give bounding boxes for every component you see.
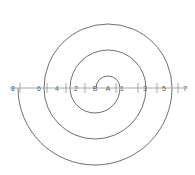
diagram-canvas: 8 6 4 2 B A 1 3 5 7 bbox=[0, 0, 195, 175]
axis-label-7: 7 bbox=[183, 85, 187, 92]
spiral-arc-6 bbox=[18, 88, 172, 165]
spiral-arc-5 bbox=[44, 24, 172, 88]
axis-label-1: 1 bbox=[120, 85, 124, 92]
axis-label-3: 3 bbox=[143, 85, 147, 92]
spiral-arc-4 bbox=[44, 88, 146, 139]
center-label-A: A bbox=[106, 85, 111, 92]
axis-label-2: 2 bbox=[74, 85, 78, 92]
axis-label-6: 6 bbox=[37, 85, 41, 92]
center-label-B: B bbox=[93, 85, 98, 92]
axis-label-5: 5 bbox=[162, 85, 166, 92]
axis-label-8: 8 bbox=[11, 85, 15, 92]
axis-label-4: 4 bbox=[55, 85, 59, 92]
spiral-path-group bbox=[18, 24, 172, 165]
spiral-arc-3 bbox=[70, 50, 146, 88]
spiral-figure: 8 6 4 2 B A 1 3 5 7 bbox=[0, 0, 195, 175]
